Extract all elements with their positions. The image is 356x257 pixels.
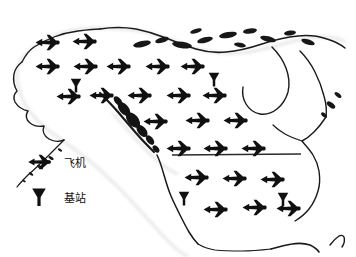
aircraft-marker[interactable] [240, 140, 266, 157]
aircraft-marker[interactable] [221, 170, 247, 187]
arctic-archipelago [133, 27, 316, 50]
aircraft-marker[interactable] [34, 34, 60, 51]
aircraft-marker[interactable] [183, 169, 209, 186]
aircraft-marker[interactable] [165, 87, 191, 104]
aircraft-marker[interactable] [126, 87, 152, 104]
usa-canada-border-line [172, 154, 301, 155]
coast-labrador [300, 51, 326, 117]
aircraft-marker[interactable] [202, 140, 228, 157]
aircraft-marker[interactable] [184, 112, 210, 129]
aircraft-marker[interactable] [88, 87, 114, 104]
aircraft-marker[interactable] [222, 112, 248, 129]
aircraft-marker[interactable] [165, 140, 191, 157]
base-station-marker[interactable] [69, 77, 83, 94]
legend-label-aircraft: 飞机 [64, 154, 86, 170]
aircraft-marker[interactable] [71, 33, 97, 50]
base-station-marker[interactable] [177, 190, 191, 207]
airplane-icon [26, 151, 52, 173]
legend-item-base-station: 基站 [26, 186, 86, 208]
base-station-marker[interactable] [207, 71, 221, 88]
base-station-icon [26, 186, 52, 208]
aircraft-marker[interactable] [179, 58, 205, 75]
coast-gulf-mexico [271, 243, 319, 252]
aircraft-marker[interactable] [259, 171, 285, 188]
aircraft-marker[interactable] [202, 201, 228, 218]
aircraft-marker[interactable] [72, 58, 98, 75]
aircraft-marker[interactable] [105, 58, 131, 75]
great-lakes-outline [273, 125, 302, 141]
coast-mexico-south [198, 244, 271, 251]
map-legend: 飞机 基站 [26, 147, 122, 219]
aircraft-marker[interactable] [201, 87, 227, 104]
legend-item-aircraft: 飞机 [26, 151, 86, 173]
base-station-marker[interactable] [276, 191, 290, 208]
legend-label-base-station: 基站 [64, 189, 86, 205]
coast-florida [330, 235, 344, 247]
aircraft-marker[interactable] [144, 58, 170, 75]
faded-top-caption: · · · · · · · · [0, 0, 356, 9]
aircraft-marker[interactable] [241, 199, 267, 216]
coast-hudson-bay [243, 47, 289, 114]
aircraft-marker[interactable] [142, 113, 168, 130]
aircraft-marker[interactable] [34, 58, 60, 75]
figure-map-screenshot: · · · · · · · · [0, 0, 356, 257]
map-plate: 飞机 基站 [0, 9, 356, 257]
